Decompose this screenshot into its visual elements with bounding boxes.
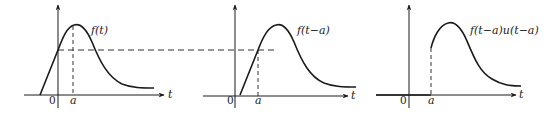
curve-label: f(t−a)u(t−a): [469, 24, 539, 37]
origin-label: 0: [400, 94, 407, 106]
curve-label: f(t−a): [296, 24, 330, 37]
a-label: a: [428, 94, 435, 107]
origin-label: 0: [227, 94, 234, 106]
a-label: a: [70, 94, 77, 107]
t-axis-label: t: [168, 88, 173, 101]
curve-label: f(t): [90, 24, 108, 37]
panel-shifted-truncated: t 0 a f(t−a)u(t−a): [376, 5, 539, 108]
t-axis-label: t: [351, 89, 356, 102]
origin-label: 0: [49, 94, 56, 106]
shift-theorem-diagram: t 0 a f(t) t 0 a f(t−a) t 0 a f(t−a)u(t−…: [0, 0, 554, 114]
panel-original: t 0 a f(t): [24, 5, 173, 108]
t-axis-label: t: [519, 88, 524, 101]
panel-shifted: t 0 a f(t−a): [203, 5, 356, 108]
